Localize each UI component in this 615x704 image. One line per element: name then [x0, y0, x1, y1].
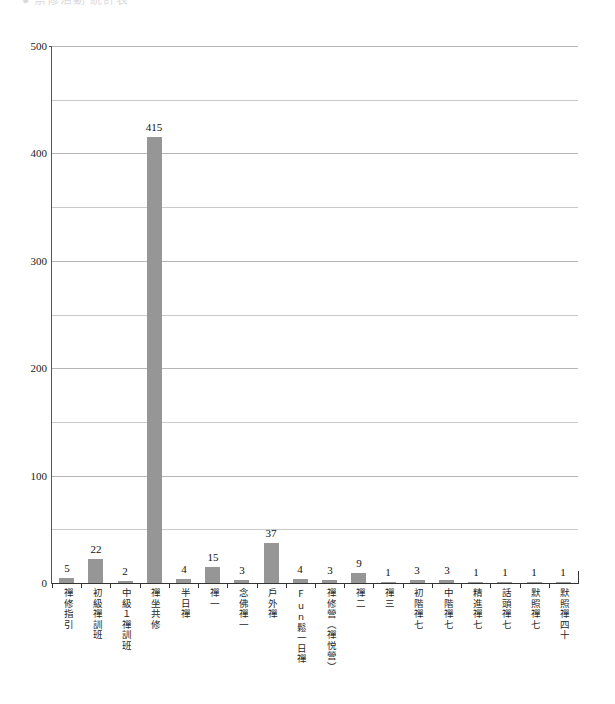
x-axis-category-label: 禪二: [354, 588, 365, 609]
x-axis-category-label: 精進禪七: [471, 588, 482, 630]
gridline-major: [52, 46, 578, 47]
x-axis-tick: [110, 583, 111, 588]
x-axis-tick: [344, 583, 345, 588]
bar-value-label: 2: [110, 566, 140, 577]
bar-value-label: 415: [139, 122, 169, 133]
x-axis-tick: [81, 583, 82, 588]
y-axis-tick-label: 0: [3, 578, 47, 589]
gridline-minor: [52, 207, 578, 208]
bar-value-label: 3: [432, 565, 462, 576]
x-axis-tick: [169, 583, 170, 588]
x-axis-tick: [257, 583, 258, 588]
y-axis-tick-label: 100: [3, 471, 47, 482]
bar-value-label: 3: [402, 565, 432, 576]
x-axis-tick: [373, 583, 374, 588]
x-axis-tick: [315, 583, 316, 588]
x-axis-tick: [461, 583, 462, 588]
x-axis-category-label: 禪坐共修: [149, 588, 160, 630]
y-axis-tick-label: 500: [3, 41, 47, 52]
x-axis-tick: [490, 583, 491, 588]
x-axis-category-label: 默照禪七: [529, 588, 540, 630]
x-axis-tick: [286, 583, 287, 588]
bar-value-label: 9: [344, 558, 374, 569]
x-axis-category-label: 禪一: [208, 588, 219, 609]
bar: [205, 567, 220, 583]
x-axis-category-label: 默照禪四十: [558, 588, 569, 641]
bar-value-label: 3: [315, 565, 345, 576]
y-axis-tick-label: 400: [3, 148, 47, 159]
x-axis-category-label: 念佛禪一: [237, 588, 248, 630]
bar: [264, 543, 279, 583]
x-axis-tick: [140, 583, 141, 588]
y-axis-line: [51, 46, 52, 584]
gridline-minor: [52, 422, 578, 423]
y-axis-tick-label: 300: [3, 256, 47, 267]
x-axis-tick: [227, 583, 228, 588]
x-axis-tick: [52, 583, 53, 588]
bar-value-label: 1: [373, 567, 403, 578]
x-axis-tick: [432, 583, 433, 588]
gridline-major: [52, 153, 578, 154]
bar-value-label: 1: [548, 567, 578, 578]
bar: [351, 573, 366, 583]
x-axis-category-label: 禪修營（禪悦營）: [325, 588, 336, 672]
bar-chart: 5004003002001000 52224154153374391331111…: [0, 0, 615, 704]
gridline-minor: [52, 100, 578, 101]
x-axis-right-cap: [578, 571, 579, 584]
bar-value-label: 3: [227, 565, 257, 576]
bar-value-label: 37: [256, 528, 286, 539]
gridline-minor: [52, 529, 578, 530]
bar-value-label: 1: [519, 567, 549, 578]
bar-value-label: 1: [461, 567, 491, 578]
gridline-minor: [52, 315, 578, 316]
y-axis-tick-label: 200: [3, 363, 47, 374]
x-axis-category-labels: 禪修指引初級禪訓班中級１禪訓班禪坐共修半日禪禪一念佛禪一戶外禪Fun鬆一日禪禪修…: [52, 588, 578, 698]
x-axis-tick: [198, 583, 199, 588]
x-axis-category-label: Fun鬆一日禪: [295, 588, 306, 665]
x-axis-category-label: 初階禪七: [412, 588, 423, 630]
x-axis-category-label: 半日禪: [179, 588, 190, 620]
x-axis-category-label: 禪三: [383, 588, 394, 609]
bar-value-label: 22: [81, 544, 111, 555]
bar-value-label: 1: [490, 567, 520, 578]
x-axis-category-label: 中階禪七: [442, 588, 453, 630]
bar-value-label: 4: [285, 564, 315, 575]
gridline-major: [52, 261, 578, 262]
y-axis-top-cap: [49, 46, 52, 47]
x-axis-tick: [549, 583, 550, 588]
bar-value-label: 15: [198, 552, 228, 563]
gridline-major: [52, 368, 578, 369]
bar-value-label: 4: [169, 564, 199, 575]
gridline-major: [52, 476, 578, 477]
bar: [88, 559, 103, 583]
bar: [147, 137, 162, 583]
x-axis-category-label: 戶外禪: [266, 588, 277, 620]
x-axis-category-label: 中級１禪訓班: [120, 588, 131, 651]
x-axis-tick: [520, 583, 521, 588]
x-axis-tick: [403, 583, 404, 588]
x-axis-category-label: 禪修指引: [62, 588, 73, 630]
x-axis-category-label: 初級禪訓班: [91, 588, 102, 641]
y-axis-tick-labels: 5004003002001000: [0, 46, 47, 583]
bar-value-label: 5: [52, 563, 82, 574]
x-axis-category-label: 話頭禪七: [500, 588, 511, 630]
plot-area: 52224154153374391331111: [52, 46, 578, 583]
